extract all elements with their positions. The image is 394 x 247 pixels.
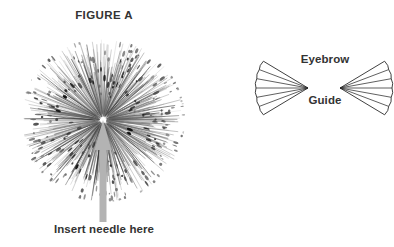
eyebrow-guide-title-line-2: Guide — [265, 94, 385, 108]
insert-needle-caption: Insert needle here — [0, 223, 208, 237]
eyebrow-guide-title: Eyebrow Guide — [265, 26, 385, 135]
eyebrow-guide-title-line-1: Eyebrow — [265, 53, 385, 67]
figure-canvas: FIGURE A Insert needle here Eyebrow Guid… — [0, 0, 394, 247]
page-title: FIGURE A — [0, 9, 208, 23]
